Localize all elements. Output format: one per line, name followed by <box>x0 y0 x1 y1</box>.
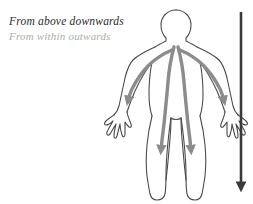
head-outline-right <box>176 10 197 47</box>
hip-junction <box>171 118 181 120</box>
right-hand-outline <box>221 112 248 138</box>
torso-right-flow-arrow <box>178 47 191 150</box>
left-arm-inner-contour <box>127 62 152 112</box>
illustration-canvas: From above downwards From within outward… <box>0 0 253 204</box>
torso-left-flow-arrow <box>161 47 174 150</box>
anatomical-figure-diagram <box>0 0 253 204</box>
left-torso-to-leg <box>149 62 152 116</box>
left-leg-inner <box>166 118 171 180</box>
right-torso-to-leg <box>200 62 203 116</box>
flow-arrows-group <box>128 47 224 150</box>
left-leg-outer <box>146 116 171 200</box>
right-leg-outer <box>181 116 206 200</box>
body-outline-group <box>105 10 248 200</box>
right-leg-inner <box>181 118 186 180</box>
head-outline <box>155 10 176 47</box>
left-hand-outline <box>105 112 132 138</box>
right-arm-inner-contour <box>200 62 225 112</box>
